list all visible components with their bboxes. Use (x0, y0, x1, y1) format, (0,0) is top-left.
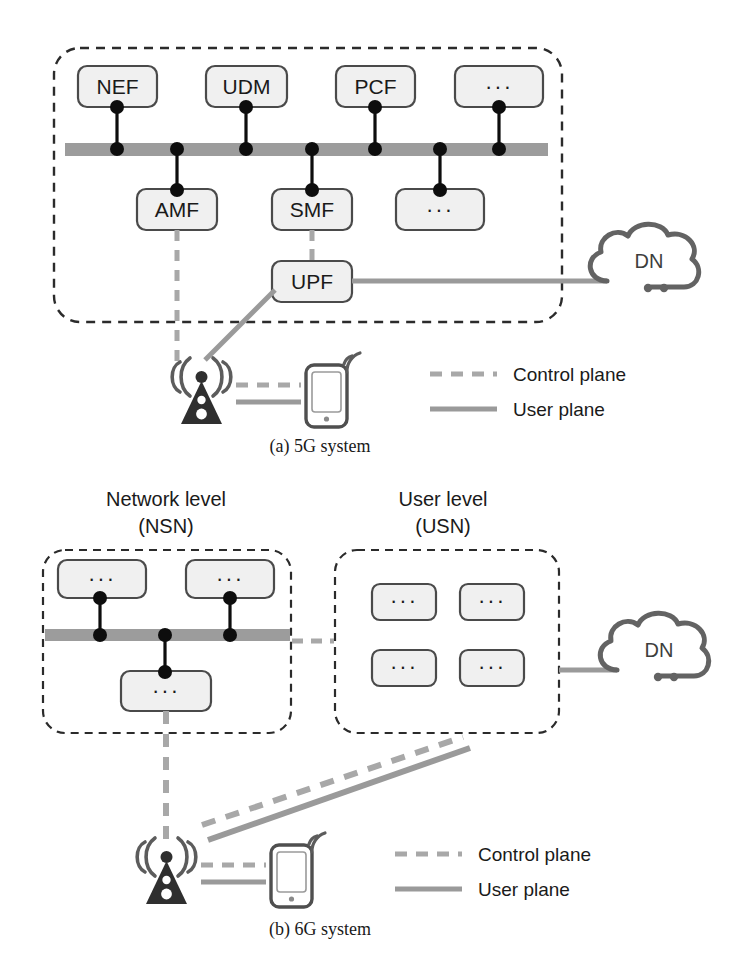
nsn-box-top-2-label: ··· (216, 566, 244, 591)
base-station-icon-b (137, 838, 196, 904)
nf-box-top-ellipsis-label: ··· (485, 74, 513, 99)
nsn-box-low-1-label: ··· (152, 678, 180, 703)
usn-box-1[interactable]: ··· (372, 584, 436, 620)
usn-box-3[interactable]: ··· (372, 650, 436, 686)
usn-box-2-label: ··· (478, 588, 506, 613)
dn-cloud-b-label: DN (645, 639, 674, 661)
usn-box-1-label: ··· (390, 588, 418, 613)
panel-b-caption: (b) 6G system (269, 919, 371, 940)
nf-box-upf[interactable]: UPF (272, 261, 352, 302)
dn-cloud-b: DN (600, 613, 708, 681)
legend-a: Control plane User plane (430, 364, 626, 420)
nsn-header-line2: (NSN) (138, 515, 194, 537)
nsn-header-line1: Network level (106, 488, 226, 510)
upf-gnb-user-link (205, 290, 275, 360)
panel-b: Network level (NSN) User level (USN) ··· (43, 488, 709, 940)
nf-box-smf-label: SMF (290, 198, 334, 221)
legend-a-control-label: Control plane (513, 364, 626, 385)
ue-phone-icon-b (271, 833, 325, 907)
dn-cloud-a: DN (590, 224, 698, 292)
dn-cloud-a-label: DN (635, 250, 664, 272)
nsn-box-top-1-label: ··· (88, 566, 116, 591)
figure-canvas: NEF UDM PCF ··· AMF SMF ··· (0, 0, 746, 974)
base-station-icon-a (172, 358, 231, 424)
nf-box-upf-label: UPF (291, 270, 333, 293)
nf-box-udm-label: UDM (223, 75, 271, 98)
legend-a-user-label: User plane (513, 399, 605, 420)
usn-box-2[interactable]: ··· (460, 584, 524, 620)
usn-header: User level (USN) (399, 488, 488, 537)
usn-header-line2: (USN) (415, 515, 471, 537)
legend-b-control-label: Control plane (478, 844, 591, 865)
nf-box-mid-ellipsis-label: ··· (426, 197, 454, 222)
usn-boundary (335, 550, 559, 733)
ue-phone-icon-a (306, 353, 360, 427)
nf-box-nef-label: NEF (97, 75, 139, 98)
usn-gnb-user-link (208, 748, 470, 840)
nf-box-pcf-label: PCF (355, 75, 397, 98)
nsn-header: Network level (NSN) (106, 488, 226, 537)
panel-a: NEF UDM PCF ··· AMF SMF ··· (54, 48, 699, 457)
usn-box-3-label: ··· (390, 654, 418, 679)
panel-a-caption: (a) 5G system (270, 436, 371, 457)
usn-box-4-label: ··· (478, 654, 506, 679)
usn-box-4[interactable]: ··· (460, 650, 524, 686)
nf-box-amf-label: AMF (155, 198, 199, 221)
legend-b-user-label: User plane (478, 879, 570, 900)
usn-gnb-control-link (202, 737, 463, 825)
legend-b: Control plane User plane (395, 844, 591, 900)
usn-header-line1: User level (399, 488, 488, 510)
